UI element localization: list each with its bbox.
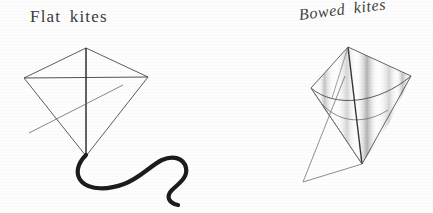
flat-kite-drawing <box>24 48 186 205</box>
bowed-kite-drawing <box>303 40 412 182</box>
flat-kite-bridle-lines <box>24 78 123 154</box>
flat-kite-tail <box>78 155 187 205</box>
kite-diagram-canvas <box>0 0 433 213</box>
flat-kite-caption: Flat kites <box>30 7 108 27</box>
kite-comparison-figure: Flat kites Bowed kites <box>0 0 433 213</box>
